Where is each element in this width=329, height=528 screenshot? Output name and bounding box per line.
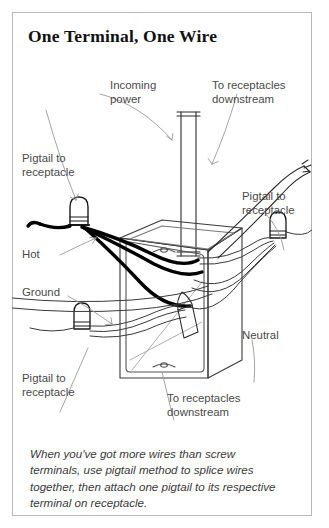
splice-detail xyxy=(178,292,199,338)
illustration-page: One Terminal, One Wire xyxy=(0,0,329,528)
neutral-pigtail-stub xyxy=(286,230,312,235)
incoming-cable-icon xyxy=(177,112,200,256)
figure-caption: When you've got more wires than screw te… xyxy=(30,446,282,512)
wiring-diagram xyxy=(12,60,312,420)
wire-nut-top-left-icon xyxy=(69,197,89,225)
label-pigtail-bottom-left: Pigtail to receptacle xyxy=(22,372,75,399)
label-ground: Ground xyxy=(22,286,60,300)
wire-nut-bottom-left-icon xyxy=(74,303,90,329)
label-to-receptacles-top: To receptacles downstream xyxy=(212,79,285,106)
label-to-receptacles-bottom: To receptacles downstream xyxy=(167,392,240,419)
leader-lines xyxy=(46,94,284,420)
label-hot: Hot xyxy=(22,248,40,262)
hot-pigtail-stub xyxy=(28,222,40,226)
page-title: One Terminal, One Wire xyxy=(28,26,217,47)
label-pigtail-top-left: Pigtail to receptacle xyxy=(22,152,75,179)
label-incoming-power: Incoming power xyxy=(110,79,156,106)
label-pigtail-right: Pigtail to receptacle xyxy=(242,190,295,217)
label-neutral: Neutral xyxy=(242,329,279,343)
